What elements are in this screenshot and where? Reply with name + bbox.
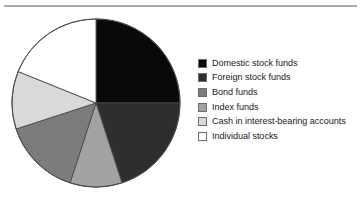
pie-chart-svg: [10, 17, 182, 189]
legend-item: Domestic stock funds: [198, 56, 358, 71]
pie-chart: [10, 17, 182, 189]
legend-swatch-icon: [198, 103, 207, 112]
legend-item: Foreign stock funds: [198, 71, 358, 86]
legend-item-label: Domestic stock funds: [212, 59, 297, 68]
legend-swatch-icon: [198, 59, 207, 68]
legend-item: Bond funds: [198, 85, 358, 100]
top-divider-rule: [4, 5, 357, 7]
legend-swatch-icon: [198, 73, 207, 82]
legend-item: Individual stocks: [198, 129, 358, 144]
legend-item: Index funds: [198, 100, 358, 115]
legend-item-label: Individual stocks: [212, 132, 278, 141]
legend-swatch-icon: [198, 88, 207, 97]
chart-legend: Domestic stock fundsForeign stock fundsB…: [198, 56, 358, 144]
pie-slice: [96, 19, 180, 103]
legend-item: Cash in interest-bearing accounts: [198, 114, 358, 129]
pie-chart-figure: Domestic stock fundsForeign stock fundsB…: [0, 0, 361, 198]
legend-item-label: Bond funds: [212, 88, 258, 97]
legend-item-label: Index funds: [212, 103, 258, 112]
legend-item-label: Foreign stock funds: [212, 73, 290, 82]
pie-slice-group: [12, 19, 180, 187]
legend-swatch-icon: [198, 132, 207, 141]
legend-swatch-icon: [198, 117, 207, 126]
legend-item-label: Cash in interest-bearing accounts: [212, 117, 346, 126]
